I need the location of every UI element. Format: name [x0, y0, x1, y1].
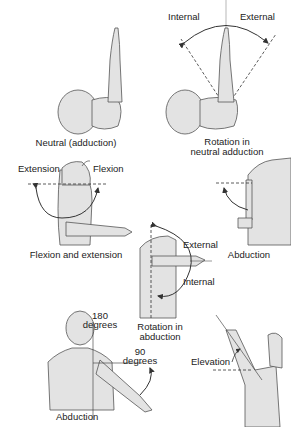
abduction-side-figure	[216, 158, 291, 245]
label-180-degrees: degrees	[83, 320, 117, 330]
caption-abduction-back: Abduction	[56, 412, 98, 422]
caption-rotation-neutral-line2: neutral adduction	[191, 147, 264, 157]
elevation-figure	[213, 315, 282, 427]
label-external: External	[240, 12, 275, 22]
caption-rotation-abduction-line2: abduction	[139, 332, 180, 342]
label-internal: Internal	[168, 12, 200, 22]
label-90-degrees: degrees	[123, 356, 157, 366]
label-elevation: Elevation	[191, 357, 230, 367]
caption-flexion-extension: Flexion and extension	[30, 250, 122, 260]
label-extension: Extension	[18, 164, 60, 174]
neutral-figure	[58, 28, 122, 134]
label-flexion: Flexion	[93, 164, 124, 174]
label-external-abduction: External	[183, 240, 218, 250]
caption-abduction-side: Abduction	[228, 250, 270, 260]
caption-neutral: Neutral (adduction)	[36, 138, 117, 148]
label-internal-abduction: Internal	[183, 277, 215, 287]
